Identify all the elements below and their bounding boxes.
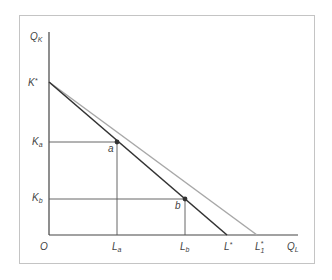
la-label: La bbox=[112, 241, 122, 253]
point-b-label: b bbox=[175, 200, 181, 211]
isocost-diagram: QK K* Ka Kb O La Lb L* L1* QL a b bbox=[0, 0, 332, 280]
isocost-original-line bbox=[49, 82, 227, 235]
point-b bbox=[183, 197, 188, 202]
x-axis-label: QL bbox=[287, 241, 299, 253]
lb-label: Lb bbox=[180, 241, 190, 253]
l1-star-label: L1* bbox=[255, 240, 265, 254]
y-axis-label: QK bbox=[30, 31, 43, 43]
k-star-label: K* bbox=[28, 77, 38, 88]
origin-label: O bbox=[40, 241, 48, 252]
ka-label: Ka bbox=[32, 136, 43, 148]
l-star-label: L* bbox=[224, 241, 233, 252]
isocost-new-line bbox=[49, 82, 257, 235]
point-a bbox=[115, 140, 120, 145]
point-a-label: a bbox=[108, 143, 114, 154]
kb-label: Kb bbox=[32, 192, 43, 204]
